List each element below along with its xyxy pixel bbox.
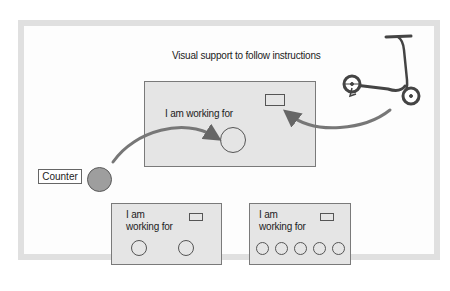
arrow-scooter-to-reward	[290, 110, 390, 128]
scooter-icon	[344, 36, 419, 104]
arrows-layer	[0, 0, 450, 291]
arrow-counter-to-token	[113, 128, 214, 162]
